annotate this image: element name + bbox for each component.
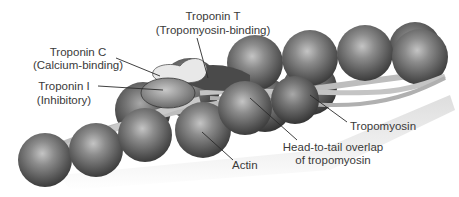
label-overlap: Head-to-tail overlap: [283, 141, 383, 153]
label-troponin-t-sub: (Tropomyosin-binding): [156, 24, 271, 36]
label-overlap-sub: of tropomyosin: [295, 154, 370, 166]
label-actin: Actin: [232, 159, 258, 171]
label-troponin-c: Troponin C: [50, 46, 106, 58]
label-troponin-i-sub: (Inhibitory): [37, 94, 91, 106]
thin-filament-diagram: Troponin T (Tropomyosin-binding) Troponi…: [0, 0, 459, 197]
label-troponin-i: Troponin I: [38, 80, 89, 92]
troponin-i-shape: [141, 78, 195, 108]
label-troponin-t: Troponin T: [186, 10, 241, 22]
label-tropomyosin: Tropomyosin: [350, 120, 416, 132]
label-troponin-c-sub: (Calcium-binding): [33, 59, 123, 71]
